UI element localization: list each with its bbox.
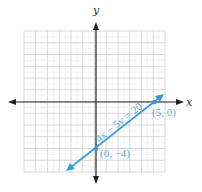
point-5-0-label: (5, 0) (152, 106, 176, 119)
y-axis-down-arrow-icon (93, 176, 99, 184)
coordinate-plane: x y (5, 0) (0, −4) 4x − 5y = 20 (0, 0, 202, 192)
point-0-neg4 (94, 147, 98, 151)
point-5-0 (152, 100, 156, 104)
x-axis-left-arrow-icon (8, 99, 16, 105)
y-axis-label: y (92, 4, 100, 17)
x-axis-label: x (186, 96, 193, 109)
point-0-neg4-label: (0, −4) (100, 147, 130, 160)
y-axis-up-arrow-icon (93, 22, 99, 30)
x-axis-right-arrow-icon (176, 99, 184, 105)
